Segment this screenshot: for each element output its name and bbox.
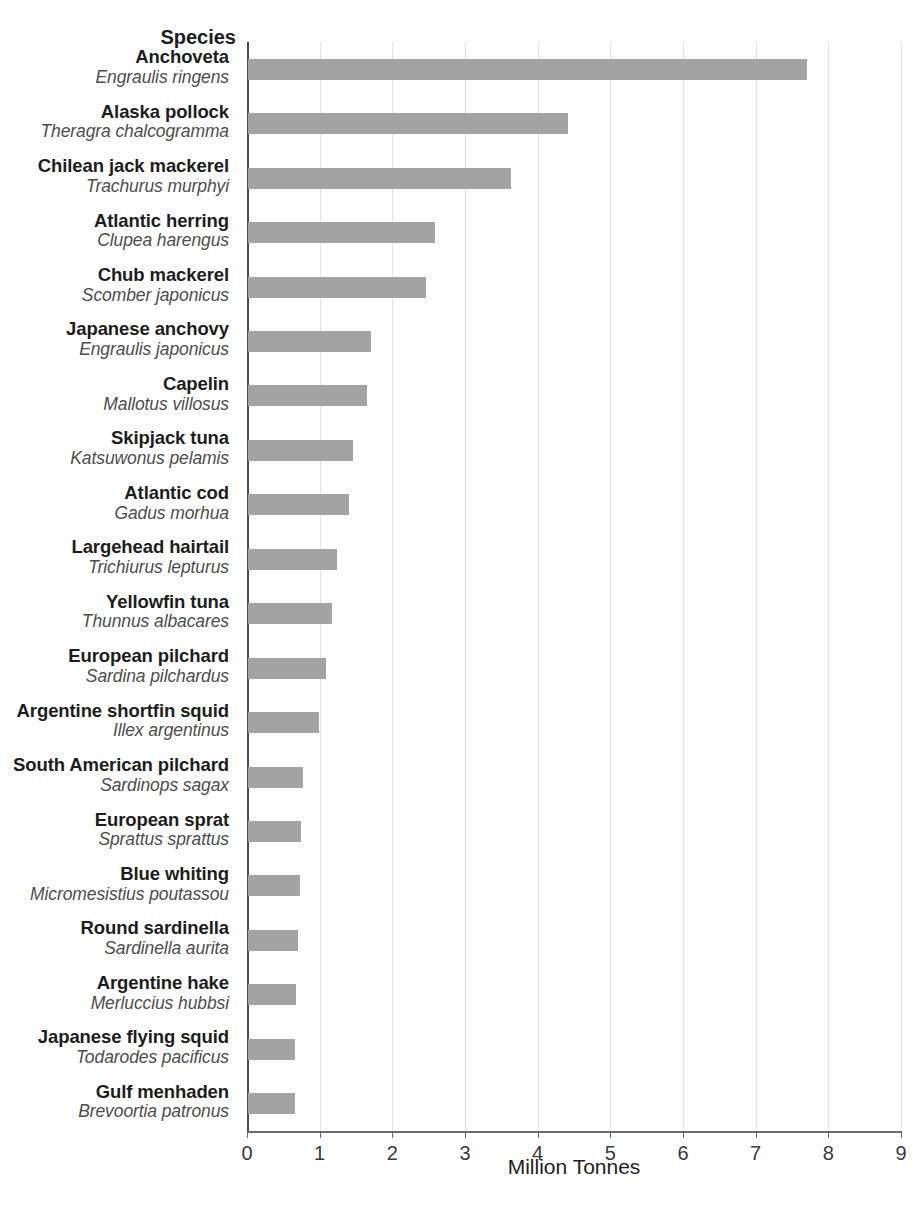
species-scientific-name: Todarodes pacificus	[0, 1048, 229, 1068]
species-common-name: Argentine hake	[0, 973, 229, 994]
y-axis-line	[247, 42, 249, 1131]
category-label: Blue whitingMicromesistius poutassou	[0, 864, 229, 904]
bar	[248, 549, 337, 570]
bar	[248, 821, 301, 842]
bar	[248, 767, 303, 788]
species-scientific-name: Trachurus murphyi	[0, 177, 229, 197]
species-scientific-name: Scomber japonicus	[0, 286, 229, 306]
species-scientific-name: Engraulis japonicus	[0, 340, 229, 360]
species-scientific-name: Trichiurus lepturus	[0, 558, 229, 578]
gridline	[683, 42, 684, 1131]
bar	[248, 603, 332, 624]
tick-mark	[901, 1131, 902, 1138]
category-label: Yellowfin tunaThunnus albacares	[0, 592, 229, 632]
gridline	[901, 42, 902, 1131]
category-label: Atlantic codGadus morhua	[0, 483, 229, 523]
species-common-name: Alaska pollock	[0, 102, 229, 123]
chart-page: Species AnchovetaEngraulis ringensAlaska…	[0, 0, 923, 1206]
bar	[248, 222, 435, 243]
category-label: Skipjack tunaKatsuwonus pelamis	[0, 428, 229, 468]
category-label: Chilean jack mackerelTrachurus murphyi	[0, 156, 229, 196]
category-label: Alaska pollockTheragra chalcogramma	[0, 102, 229, 142]
species-common-name: Argentine shortfin squid	[0, 701, 229, 722]
category-label: Atlantic herringClupea harengus	[0, 211, 229, 251]
tick-mark	[392, 1131, 393, 1138]
bar	[248, 658, 326, 679]
category-label: Round sardinellaSardinella aurita	[0, 918, 229, 958]
species-scientific-name: Sardinops sagax	[0, 776, 229, 796]
species-scientific-name: Sardinella aurita	[0, 939, 229, 959]
category-label: European pilchardSardina pilchardus	[0, 646, 229, 686]
x-axis-line	[247, 1131, 901, 1133]
bar	[248, 331, 371, 352]
category-label: Argentine hakeMerluccius hubbsi	[0, 973, 229, 1013]
category-label: Chub mackerelScomber japonicus	[0, 265, 229, 305]
species-common-name: Skipjack tuna	[0, 428, 229, 449]
species-common-name: Japanese flying squid	[0, 1027, 229, 1048]
species-scientific-name: Clupea harengus	[0, 231, 229, 251]
category-label: South American pilchardSardinops sagax	[0, 755, 229, 795]
species-common-name: Chilean jack mackerel	[0, 156, 229, 177]
bar	[248, 930, 298, 951]
gridline	[392, 42, 393, 1131]
tick-mark	[538, 1131, 539, 1138]
species-scientific-name: Illex argentinus	[0, 721, 229, 741]
category-label-column: AnchovetaEngraulis ringensAlaska pollock…	[0, 42, 240, 1131]
species-common-name: Japanese anchovy	[0, 319, 229, 340]
species-common-name: Largehead hairtail	[0, 537, 229, 558]
gridline	[756, 42, 757, 1131]
species-scientific-name: Gadus morhua	[0, 504, 229, 524]
species-common-name: European sprat	[0, 810, 229, 831]
tick-mark	[465, 1131, 466, 1138]
species-scientific-name: Micromesistius poutassou	[0, 885, 229, 905]
gridline	[828, 42, 829, 1131]
species-scientific-name: Mallotus villosus	[0, 395, 229, 415]
species-scientific-name: Merluccius hubbsi	[0, 994, 229, 1014]
category-label: Argentine shortfin squidIllex argentinus	[0, 701, 229, 741]
category-label: Gulf menhadenBrevoortia patronus	[0, 1082, 229, 1122]
species-scientific-name: Katsuwonus pelamis	[0, 449, 229, 469]
species-scientific-name: Theragra chalcogramma	[0, 122, 229, 142]
gridline	[610, 42, 611, 1131]
plot-area: 0123456789	[247, 42, 901, 1131]
bar	[248, 113, 568, 134]
bar	[248, 440, 353, 461]
bar	[248, 984, 296, 1005]
tick-mark	[247, 1131, 248, 1138]
species-scientific-name: Sprattus sprattus	[0, 830, 229, 850]
x-axis-title: Million Tonnes	[247, 1155, 901, 1179]
tick-mark	[756, 1131, 757, 1138]
bar	[248, 385, 367, 406]
tick-mark	[828, 1131, 829, 1138]
gridline	[320, 42, 321, 1131]
species-common-name: Atlantic cod	[0, 483, 229, 504]
bar	[248, 1039, 295, 1060]
tick-mark	[610, 1131, 611, 1138]
category-label: Largehead hairtailTrichiurus lepturus	[0, 537, 229, 577]
bar	[248, 59, 807, 80]
bar	[248, 875, 300, 896]
bar	[248, 1093, 295, 1114]
species-common-name: European pilchard	[0, 646, 229, 667]
species-common-name: Yellowfin tuna	[0, 592, 229, 613]
bar	[248, 712, 319, 733]
gridline	[538, 42, 539, 1131]
species-scientific-name: Brevoortia patronus	[0, 1102, 229, 1122]
category-label: European spratSprattus sprattus	[0, 810, 229, 850]
category-label: CapelinMallotus villosus	[0, 374, 229, 414]
gridline	[465, 42, 466, 1131]
category-label: Japanese flying squidTodarodes pacificus	[0, 1027, 229, 1067]
species-common-name: Round sardinella	[0, 918, 229, 939]
category-label: Japanese anchovyEngraulis japonicus	[0, 319, 229, 359]
tick-mark	[320, 1131, 321, 1138]
species-common-name: Gulf menhaden	[0, 1082, 229, 1103]
species-common-name: South American pilchard	[0, 755, 229, 776]
species-common-name: Anchoveta	[0, 47, 229, 68]
species-scientific-name: Sardina pilchardus	[0, 667, 229, 687]
bar	[248, 494, 349, 515]
tick-mark	[683, 1131, 684, 1138]
species-common-name: Capelin	[0, 374, 229, 395]
species-scientific-name: Engraulis ringens	[0, 68, 229, 88]
species-common-name: Chub mackerel	[0, 265, 229, 286]
species-common-name: Blue whiting	[0, 864, 229, 885]
